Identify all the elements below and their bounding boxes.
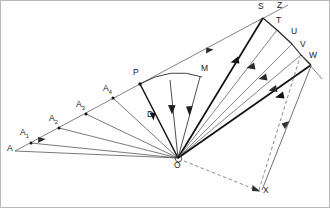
figure-border [1, 1, 330, 208]
label-T: T [276, 16, 281, 25]
label-M: M [201, 64, 208, 73]
dot-A1 [30, 142, 33, 145]
dot-A3 [85, 113, 88, 116]
label-A3: A3 [76, 100, 85, 111]
label-P: P [133, 68, 139, 77]
label-O: O [174, 161, 181, 170]
ray-fan-diagram [0, 0, 330, 208]
label-A4: A4 [103, 84, 112, 95]
label-A2: A2 [49, 114, 58, 125]
label-V: V [300, 40, 306, 49]
label-A: A [7, 144, 13, 155]
dot-A2 [58, 127, 61, 130]
figure-root: A A1 A2 A3 A4 P M D S Z T U V W O X [0, 0, 330, 208]
label-X: X [263, 186, 269, 195]
dot-A4 [112, 97, 115, 100]
label-A1: A1 [20, 128, 29, 139]
label-Z: Z [277, 1, 282, 10]
label-W: W [309, 51, 317, 60]
label-S: S [258, 2, 264, 11]
dot-P [138, 82, 141, 85]
label-D: D [147, 110, 153, 119]
label-U: U [291, 27, 297, 36]
